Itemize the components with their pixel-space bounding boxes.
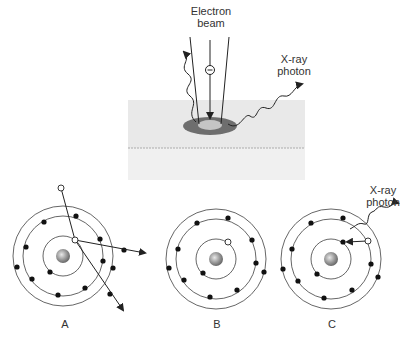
panel-label-b: B	[211, 318, 223, 330]
atom-b	[166, 209, 267, 309]
label-line: photon	[362, 196, 404, 208]
atom-c	[280, 203, 398, 309]
xray-photon-label-c: X-ray photon	[362, 184, 404, 208]
xray-emission-diagram	[0, 0, 410, 343]
label-line: X-ray	[273, 53, 315, 65]
electron-beam-label: Electron beam	[188, 5, 234, 29]
xray-photon-label-top: X-ray photon	[273, 53, 315, 77]
interaction-spot	[183, 117, 237, 135]
sample-block	[128, 100, 305, 180]
label-line: beam	[188, 17, 234, 29]
label-line: X-ray	[362, 184, 404, 196]
panel-label-a: A	[59, 318, 71, 330]
label-line: Electron	[188, 5, 234, 17]
label-line: photon	[273, 65, 315, 77]
panel-label-c: C	[326, 318, 338, 330]
atom-a	[13, 185, 145, 310]
